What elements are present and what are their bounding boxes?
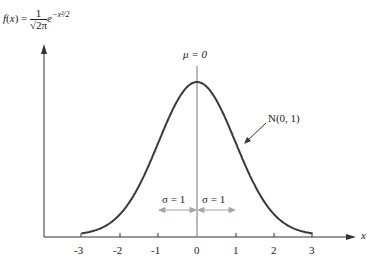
sigma-left-label: σ = 1 (162, 193, 185, 205)
normal-distribution-plot (0, 0, 379, 269)
tick-label: -3 (74, 244, 83, 256)
curve-label: N(0, 1) (268, 112, 300, 124)
tick-label: -1 (151, 244, 160, 256)
sigma-right-label: σ = 1 (202, 193, 225, 205)
x-axis-label: x (361, 229, 366, 241)
tick-label: 1 (233, 244, 239, 256)
mean-label: μ = 0 (183, 48, 207, 60)
curve-pointer (248, 123, 266, 140)
tick-label: 3 (309, 244, 315, 256)
y-axis-arrow-icon (41, 44, 47, 54)
formula-label: f(x) = 1 √2π e−x²/2 (3, 8, 70, 31)
tick-label: -2 (113, 244, 122, 256)
tick-label: 2 (271, 244, 277, 256)
tick-label: 0 (194, 244, 200, 256)
x-axis-arrow-icon (346, 234, 356, 240)
